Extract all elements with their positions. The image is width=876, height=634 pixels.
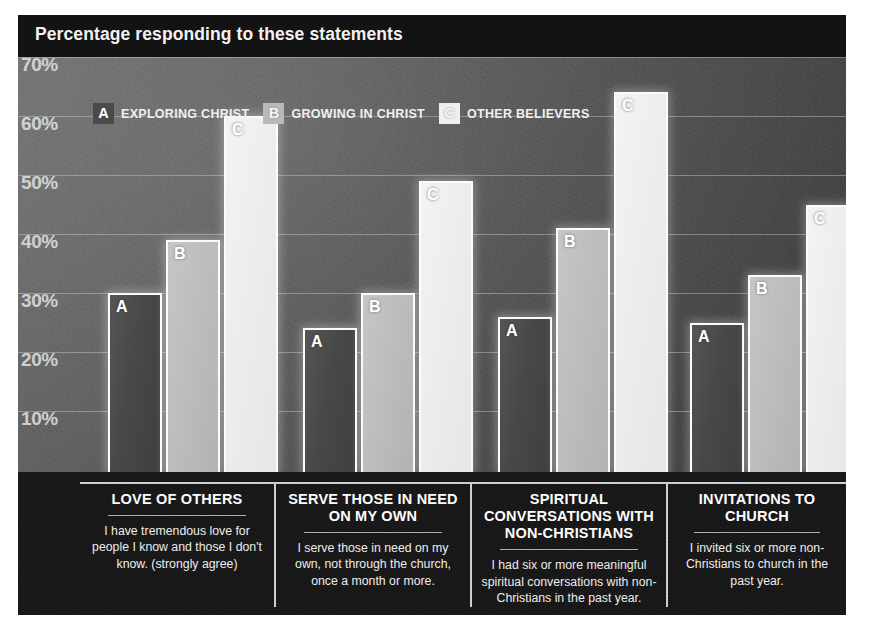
category-panel-description: I invited six or more non-Christians to … — [676, 540, 838, 589]
page-title: Percentage responding to these statement… — [35, 24, 403, 45]
bar-series-letter: B — [369, 299, 381, 315]
bar-series-letter: C — [232, 122, 244, 138]
y-axis-label-20: 20% — [21, 349, 58, 371]
bar[interactable]: C — [614, 92, 668, 472]
legend-swatch-b: B — [263, 103, 284, 124]
category-panel-4[interactable]: INVITATIONS TO CHURCHI invited six or mo… — [668, 482, 846, 607]
y-axis-label-50: 50% — [21, 172, 58, 194]
bar-series-letter: C — [622, 98, 634, 114]
category-panel-3[interactable]: SPIRITUAL CONVERSATIONS WITH NON-CHRISTI… — [472, 482, 668, 607]
bar-series-letter: A — [698, 329, 710, 345]
bar[interactable]: C — [224, 116, 278, 472]
plot-area: 10%20%30%40%50%60%70% AEXPLORING CHRISTB… — [18, 57, 846, 472]
legend-entry-b[interactable]: BGROWING IN CHRIST — [263, 103, 425, 124]
bar[interactable]: A — [498, 317, 552, 472]
panel-divider — [304, 532, 443, 533]
bar[interactable]: A — [303, 328, 357, 472]
bar[interactable]: A — [108, 293, 162, 472]
legend-label-b: GROWING IN CHRIST — [291, 107, 425, 121]
bar-series-letter: B — [174, 246, 186, 262]
bar[interactable]: C — [806, 205, 846, 473]
y-axis-label-10: 10% — [21, 408, 58, 430]
y-axis-label-60: 60% — [21, 113, 58, 135]
bar-series-letter: B — [564, 234, 576, 250]
bar[interactable]: B — [556, 228, 610, 472]
category-panel-description: I serve those in need on my own, not thr… — [284, 540, 462, 589]
category-panel-1[interactable]: LOVE OF OTHERSI have tremendous love for… — [80, 482, 276, 607]
gridline-70 — [18, 57, 846, 58]
bar-series-letter: B — [756, 281, 768, 297]
legend-entry-a[interactable]: AEXPLORING CHRIST — [93, 103, 249, 124]
category-panels: LOVE OF OTHERSI have tremendous love for… — [18, 472, 846, 615]
bar-series-letter: A — [311, 334, 323, 350]
bar-series-letter: C — [427, 187, 439, 203]
category-panel-description: I had six or more meaningful spiritual c… — [480, 557, 658, 606]
chart-container: Percentage responding to these statement… — [18, 15, 846, 615]
legend-label-c: OTHER BELIEVERS — [467, 107, 590, 121]
bar[interactable]: B — [361, 293, 415, 472]
category-panel-title: SPIRITUAL CONVERSATIONS WITH NON-CHRISTI… — [480, 491, 658, 542]
bar[interactable]: B — [748, 275, 802, 472]
panel-divider — [694, 532, 820, 533]
panel-divider — [500, 549, 639, 550]
category-panel-title: LOVE OF OTHERS — [88, 491, 266, 508]
bar-series-letter: A — [116, 299, 128, 315]
category-panel-description: I have tremendous love for people I know… — [88, 523, 266, 572]
bar[interactable]: C — [419, 181, 473, 472]
y-axis-label-40: 40% — [21, 231, 58, 253]
y-axis-label-70: 70% — [21, 57, 58, 76]
category-panel-title: SERVE THOSE IN NEED ON MY OWN — [284, 491, 462, 525]
category-panel-title: INVITATIONS TO CHURCH — [676, 491, 838, 525]
y-axis-label-30: 30% — [21, 290, 58, 312]
legend-swatch-c: C — [439, 103, 460, 124]
category-panel-2[interactable]: SERVE THOSE IN NEED ON MY OWNI serve tho… — [276, 482, 472, 607]
chart-title-bar: Percentage responding to these statement… — [18, 15, 846, 57]
bar[interactable]: A — [690, 323, 744, 473]
bar-series-letter: A — [506, 323, 518, 339]
gridline-50 — [18, 175, 846, 176]
legend-label-a: EXPLORING CHRIST — [121, 107, 249, 121]
legend-entry-c[interactable]: COTHER BELIEVERS — [439, 103, 590, 124]
panel-divider — [108, 515, 247, 516]
legend-swatch-a: A — [93, 103, 114, 124]
bar[interactable]: B — [166, 240, 220, 472]
bar-series-letter: C — [814, 211, 826, 227]
legend: AEXPLORING CHRISTBGROWING IN CHRISTCOTHE… — [93, 103, 590, 124]
